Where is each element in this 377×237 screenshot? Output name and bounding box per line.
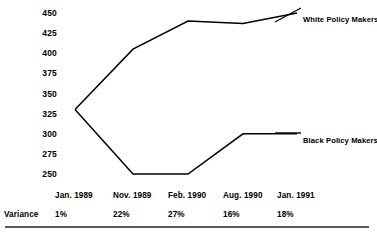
variance-value: 22% (113, 210, 130, 219)
series-label-black-policy-makers: Black Policy Makers (303, 136, 377, 145)
series-line-white-policy-makers (75, 13, 297, 110)
chart-page: 450425400375350325300275250 White Policy… (0, 0, 377, 237)
series-label-white-policy-makers: White Policy Makers (303, 15, 377, 24)
variance-row: 1%22%27%16%18% (0, 210, 377, 224)
x-axis-label: Feb. 1990 (168, 191, 206, 200)
variance-value: 1% (55, 210, 67, 219)
variance-value: 16% (223, 210, 240, 219)
x-axis-category-row: Jan. 1989Nov. 1989Feb. 1990Aug. 1990Jan.… (0, 191, 377, 205)
leader-line-white (275, 8, 301, 22)
x-axis-label: Aug. 1990 (223, 191, 263, 200)
x-axis-label: Jan. 1989 (55, 191, 93, 200)
variance-value: 18% (277, 210, 294, 219)
variance-value: 27% (168, 210, 185, 219)
x-axis-label: Nov. 1989 (113, 191, 152, 200)
plot-area (0, 0, 377, 200)
bottom-divider (5, 226, 369, 228)
series-line-black-policy-makers (75, 110, 297, 174)
x-axis-label: Jan. 1991 (277, 191, 315, 200)
